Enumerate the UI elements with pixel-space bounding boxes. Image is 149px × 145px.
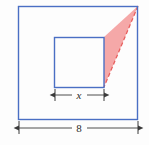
geometry-figure: x 8 [0, 0, 149, 145]
x-dimension-label: x [76, 89, 82, 101]
width-dimension-label: 8 [76, 122, 82, 134]
figure-canvas: x 8 [0, 0, 149, 145]
